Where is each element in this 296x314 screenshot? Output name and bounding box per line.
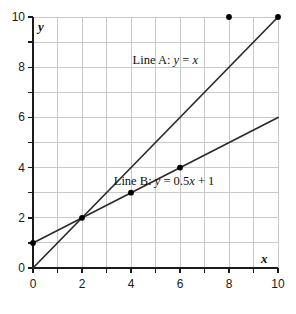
series-label-a: Line A: y = x xyxy=(133,53,198,66)
data-point-marker xyxy=(128,190,134,196)
chart-figure: 0246810 0246810 x y Line A: y = xLine B:… xyxy=(0,0,296,314)
x-tick-label: 4 xyxy=(128,278,135,290)
x-tick-label: 10 xyxy=(271,278,284,290)
data-point-marker xyxy=(275,14,281,20)
series-label-b: Line B: y = 0.5x + 1 xyxy=(114,175,215,188)
data-point-marker xyxy=(30,240,36,246)
y-tick-label: 4 xyxy=(18,162,25,174)
x-tick-label: 0 xyxy=(30,278,37,290)
y-tick-label: 0 xyxy=(18,262,25,274)
x-axis-label: x xyxy=(261,252,268,265)
annotation-points-group xyxy=(226,14,232,20)
y-axis-label: y xyxy=(38,20,44,33)
y-tick-label: 6 xyxy=(18,111,25,123)
x-tick-label: 2 xyxy=(79,278,86,290)
y-tick-label: 8 xyxy=(18,61,25,73)
data-point-marker xyxy=(79,215,85,221)
isolated-point-marker xyxy=(226,14,232,20)
x-tick-label: 6 xyxy=(177,278,184,290)
data-point-marker xyxy=(177,165,183,171)
y-tick-label: 10 xyxy=(12,11,25,23)
y-tick-label: 2 xyxy=(18,212,25,224)
x-tick-label: 8 xyxy=(226,278,233,290)
plot-canvas xyxy=(0,0,296,314)
